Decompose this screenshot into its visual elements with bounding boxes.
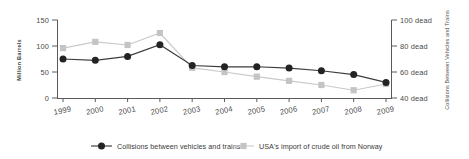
data-point-crude-oil-import xyxy=(351,87,357,93)
x-tick-label: 1999 xyxy=(53,104,72,116)
data-point-collisions xyxy=(350,71,357,78)
legend-marker-circle-icon xyxy=(98,143,105,150)
data-point-crude-oil-import xyxy=(125,42,131,48)
x-tick-label: 2000 xyxy=(85,104,104,116)
chart-canvas: 050100150 Million Barrels 40 dead60 dead… xyxy=(0,0,469,159)
x-axis-ticks xyxy=(63,99,386,103)
data-point-collisions xyxy=(318,67,325,74)
x-axis-tick-labels: 1999200020012002200320042005200620072008… xyxy=(53,104,395,116)
x-tick-label: 2003 xyxy=(182,104,201,116)
right-tick-label: 60 dead xyxy=(400,68,428,77)
data-point-collisions xyxy=(286,65,293,72)
data-point-crude-oil-import xyxy=(60,45,66,51)
series-markers-collisions xyxy=(60,41,390,86)
spurious-correlation-chart: 050100150 Million Barrels 40 dead60 dead… xyxy=(0,0,469,159)
legend-item[interactable]: USA's import of crude oil from Norway xyxy=(233,142,383,151)
right-axis-ticks: 40 dead60 dead80 dead100 dead xyxy=(392,16,433,103)
x-tick-label: 2006 xyxy=(279,104,298,116)
right-tick-label: 100 dead xyxy=(400,16,432,25)
data-point-collisions xyxy=(383,79,390,86)
left-tick-label: 150 xyxy=(36,16,49,25)
left-axis: 050100150 Million Barrels xyxy=(16,16,58,103)
left-tick-label: 0 xyxy=(45,94,49,103)
x-tick-label: 2008 xyxy=(344,104,363,116)
plot-area xyxy=(60,30,390,93)
chart-legend: Collisions between vehicles and trainsUS… xyxy=(91,142,383,151)
data-point-crude-oil-import xyxy=(157,30,163,36)
right-tick-label: 40 dead xyxy=(400,94,428,103)
x-axis: 1999200020012002200320042005200620072008… xyxy=(53,99,395,117)
right-tick-label: 80 dead xyxy=(400,42,428,51)
right-axis-title: Collisions Between Vehicles and Trains xyxy=(444,10,450,110)
data-point-crude-oil-import xyxy=(254,74,260,80)
series-line-crude-oil-import xyxy=(63,33,386,90)
right-axis: 40 dead60 dead80 dead100 dead Collisions… xyxy=(392,10,451,110)
left-tick-label: 50 xyxy=(40,68,49,77)
data-point-collisions xyxy=(253,63,260,70)
left-tick-label: 100 xyxy=(36,42,49,51)
data-point-collisions xyxy=(124,53,131,60)
legend-item[interactable]: Collisions between vehicles and trains xyxy=(91,142,241,151)
data-point-collisions xyxy=(221,63,228,70)
x-tick-label: 2002 xyxy=(150,104,169,116)
legend-label: Collisions between vehicles and trains xyxy=(117,142,241,151)
x-tick-label: 2009 xyxy=(376,104,395,116)
left-axis-title: Million Barrels xyxy=(16,39,22,81)
data-point-collisions xyxy=(92,57,99,64)
data-point-collisions xyxy=(189,62,196,69)
x-tick-label: 2007 xyxy=(311,104,330,116)
data-point-collisions xyxy=(60,56,67,63)
data-point-crude-oil-import xyxy=(92,39,98,45)
legend-marker-square-icon xyxy=(240,143,246,149)
data-point-crude-oil-import xyxy=(286,78,292,84)
data-point-crude-oil-import xyxy=(318,82,324,88)
series-markers-crude-oil-import xyxy=(60,30,389,93)
x-tick-label: 2005 xyxy=(247,104,266,116)
x-tick-label: 2004 xyxy=(214,104,233,116)
left-axis-ticks: 050100150 xyxy=(36,16,57,103)
x-tick-label: 2001 xyxy=(117,104,136,116)
legend-label: USA's import of crude oil from Norway xyxy=(259,142,383,151)
data-point-collisions xyxy=(156,41,163,48)
